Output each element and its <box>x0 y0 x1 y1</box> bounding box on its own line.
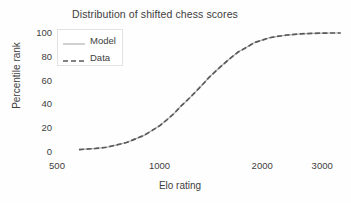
y-tick-label: 0 <box>26 146 52 157</box>
chart-legend: Model Data <box>57 29 123 66</box>
y-axis-label: Percentile rank <box>11 36 22 116</box>
chart-figure: Distribution of shifted chess scores Per… <box>0 0 351 203</box>
y-tick-label: 60 <box>26 75 52 86</box>
y-tick-label: 80 <box>26 51 52 62</box>
y-tick-label: 40 <box>26 98 52 109</box>
legend-swatch-model <box>63 35 85 45</box>
x-tick-label: 1000 <box>140 160 180 171</box>
x-tick-label: 500 <box>37 160 77 171</box>
y-tick-label: 20 <box>26 122 52 133</box>
legend-swatch-data <box>63 52 85 62</box>
legend-label-data: Data <box>90 52 110 63</box>
x-axis-label: Elo rating <box>120 180 240 191</box>
legend-label-model: Model <box>90 35 116 46</box>
legend-item-model: Model <box>58 32 122 48</box>
plot-area <box>0 0 351 203</box>
legend-item-data: Data <box>58 49 122 65</box>
y-tick-label: 100 <box>26 27 52 38</box>
x-tick-label: 3000 <box>302 160 342 171</box>
x-tick-label: 2000 <box>242 160 282 171</box>
